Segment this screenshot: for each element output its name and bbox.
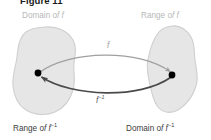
label-range-of-f: Range of f (141, 11, 179, 21)
label-domain-of-f-inverse: Domain of f−1 (126, 124, 174, 134)
label-range-of-f-inverse: Range of f−1 (13, 124, 57, 134)
right-set-blob (147, 26, 197, 113)
label-domain-of-f: Domain of f (22, 11, 64, 21)
diagram-canvas (0, 0, 211, 140)
label-arrow-f: f (107, 41, 109, 51)
figure-container: Figure 11 Domain of f Ra (0, 0, 211, 140)
left-set-blob (13, 27, 76, 115)
left-set-point (35, 70, 42, 77)
right-set-point (169, 72, 176, 79)
label-arrow-f-inverse: f−1 (96, 96, 105, 106)
